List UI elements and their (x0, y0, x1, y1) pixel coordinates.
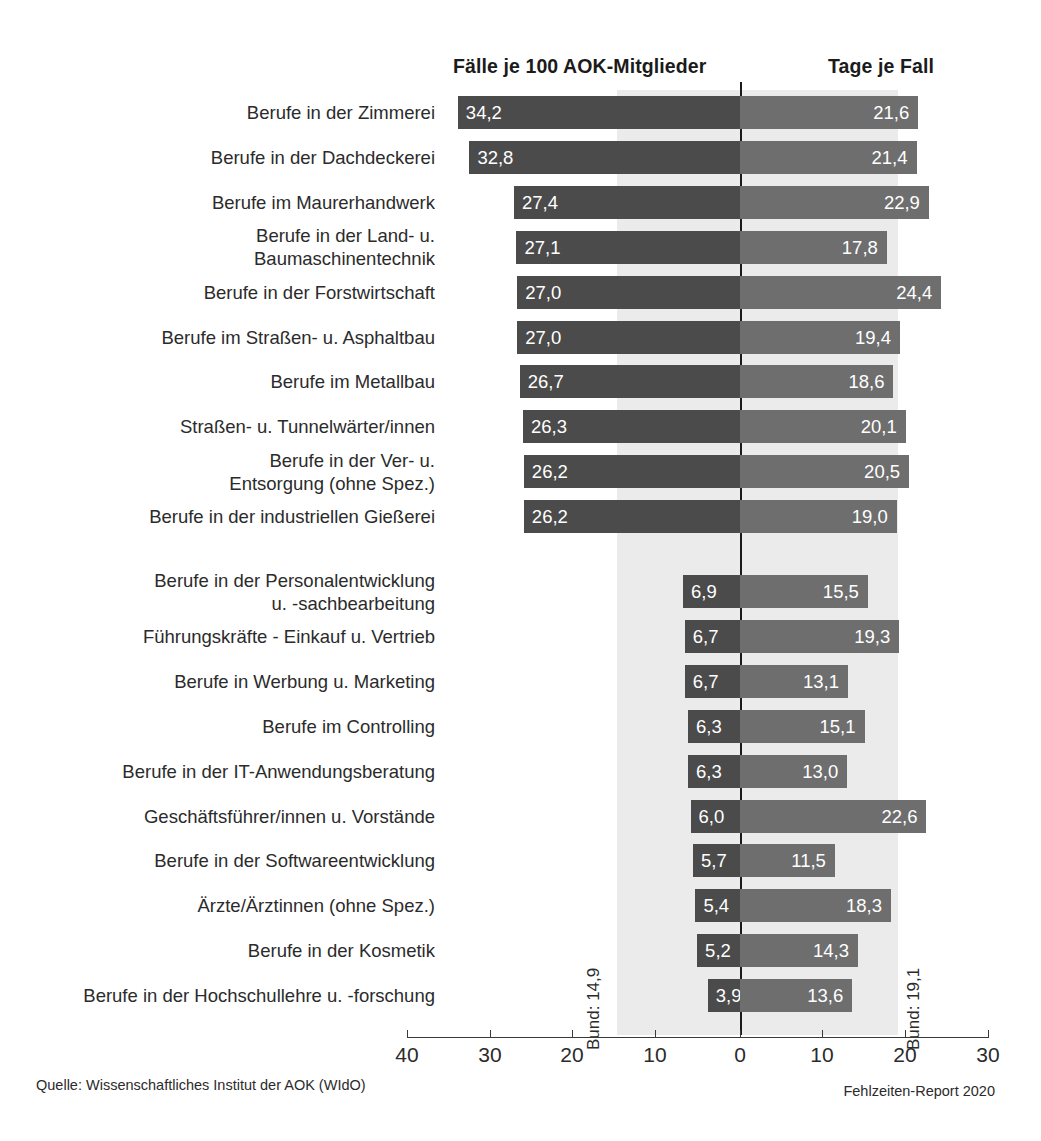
bar-tage: 21,4 (740, 141, 917, 174)
axis-tick-label: 0 (734, 1043, 746, 1067)
category-label: Berufe in der industriellen Gießerei (0, 505, 435, 528)
category-label: Berufe in der Softwareentwicklung (0, 849, 435, 872)
bar-value-faelle: 27,1 (524, 231, 560, 264)
chart-container: Fälle je 100 AOK-Mitglieder Tage je Fall… (0, 0, 1041, 1141)
bar-faelle: 6,3 (688, 755, 740, 788)
axis-tick-mark (740, 1030, 741, 1038)
bar-tage: 19,3 (740, 620, 899, 653)
bar-value-faelle: 32,8 (477, 141, 513, 174)
bar-value-tage: 19,4 (855, 321, 891, 354)
axis-tick-mark (905, 1030, 906, 1038)
bar-faelle: 27,4 (514, 186, 740, 219)
bar-value-faelle: 27,4 (522, 186, 558, 219)
bar-tage: 11,5 (740, 844, 835, 877)
right-column-header: Tage je Fall (828, 55, 934, 78)
bar-value-faelle: 6,9 (691, 575, 717, 608)
bar-tage: 17,8 (740, 231, 887, 264)
bar-tage: 24,4 (740, 276, 941, 309)
bar-value-tage: 19,3 (854, 620, 890, 653)
axis-tick-label: 40 (395, 1043, 418, 1067)
report-note: Fehlzeiten-Report 2020 (843, 1083, 995, 1099)
bar-value-tage: 20,1 (861, 410, 897, 443)
bar-faelle: 27,1 (516, 231, 740, 264)
category-label: Berufe im Controlling (0, 715, 435, 738)
bar-value-tage: 17,8 (842, 231, 878, 264)
left-column-header: Fälle je 100 AOK-Mitglieder (453, 55, 706, 78)
bar-faelle: 27,0 (517, 321, 740, 354)
bar-value-tage: 19,0 (852, 500, 888, 533)
category-label: Straßen- u. Tunnelwärter/innen (0, 415, 435, 438)
bar-value-tage: 21,6 (873, 96, 909, 129)
bar-faelle: 5,4 (695, 889, 740, 922)
bar-faelle: 5,2 (697, 934, 740, 967)
bar-value-tage: 21,4 (872, 141, 908, 174)
bar-faelle: 27,0 (517, 276, 740, 309)
bar-value-tage: 13,6 (807, 979, 843, 1012)
category-label: Berufe im Maurerhandwerk (0, 191, 435, 214)
bar-value-tage: 18,3 (846, 889, 882, 922)
category-label: Berufe in der Personalentwicklung u. -sa… (0, 569, 435, 615)
bar-value-faelle: 26,7 (528, 365, 564, 398)
category-label: Berufe in der Hochschullehre u. -forschu… (0, 984, 435, 1007)
bar-value-tage: 22,6 (881, 800, 917, 833)
bar-value-tage: 24,4 (896, 276, 932, 309)
bar-value-faelle: 6,0 (699, 800, 725, 833)
bar-tage: 22,6 (740, 800, 926, 833)
bar-tage: 18,3 (740, 889, 891, 922)
bar-tage: 14,3 (740, 934, 858, 967)
category-label: Berufe in Werbung u. Marketing (0, 670, 435, 693)
bar-faelle: 3,9 (708, 979, 740, 1012)
x-axis-line (407, 1037, 989, 1038)
bar-tage: 19,4 (740, 321, 900, 354)
bar-faelle: 6,0 (691, 800, 741, 833)
axis-tick-mark (988, 1030, 989, 1038)
bar-tage: 13,0 (740, 755, 847, 788)
axis-tick-mark (655, 1030, 656, 1038)
bar-tage: 22,9 (740, 186, 929, 219)
category-label: Berufe in der Ver- u. Entsorgung (ohne S… (0, 449, 435, 495)
bar-value-faelle: 5,7 (701, 844, 727, 877)
bar-value-faelle: 34,2 (466, 96, 502, 129)
bar-tage: 15,5 (740, 575, 868, 608)
bar-value-faelle: 26,2 (532, 455, 568, 488)
bar-tage: 19,0 (740, 500, 897, 533)
bar-tage: 21,6 (740, 96, 918, 129)
bar-faelle: 5,7 (693, 844, 740, 877)
bar-tage: 13,1 (740, 665, 848, 698)
category-label: Berufe im Straßen- u. Asphaltbau (0, 326, 435, 349)
axis-tick-mark (407, 1030, 408, 1038)
bar-value-faelle: 5,2 (705, 934, 731, 967)
axis-tick-mark (572, 1030, 573, 1038)
bar-value-faelle: 3,9 (716, 979, 742, 1012)
category-label: Berufe in der Dachdeckerei (0, 146, 435, 169)
bar-faelle: 26,2 (524, 455, 740, 488)
bar-value-faelle: 6,7 (693, 665, 719, 698)
bar-faelle: 6,7 (685, 665, 740, 698)
bar-value-faelle: 6,7 (693, 620, 719, 653)
bar-faelle: 6,3 (688, 710, 740, 743)
bar-faelle: 26,3 (523, 410, 740, 443)
axis-tick-label: 20 (560, 1043, 583, 1067)
bar-value-tage: 18,6 (848, 365, 884, 398)
category-label: Berufe in der Forstwirtschaft (0, 281, 435, 304)
bar-faelle: 26,7 (520, 365, 740, 398)
bar-faelle: 6,7 (685, 620, 740, 653)
category-label: Berufe in der Zimmerei (0, 101, 435, 124)
axis-tick-mark (490, 1030, 491, 1038)
bar-value-tage: 11,5 (791, 844, 826, 877)
bar-value-tage: 15,5 (823, 575, 859, 608)
axis-tick-label: 10 (643, 1043, 666, 1067)
bar-value-tage: 20,5 (864, 455, 900, 488)
axis-tick-label: 30 (976, 1043, 999, 1067)
bar-faelle: 32,8 (469, 141, 740, 174)
category-label: Berufe im Metallbau (0, 370, 435, 393)
axis-tick-label: 10 (810, 1043, 833, 1067)
category-label: Berufe in der Kosmetik (0, 939, 435, 962)
bar-value-faelle: 26,3 (531, 410, 567, 443)
bar-value-tage: 14,3 (813, 934, 849, 967)
bar-faelle: 26,2 (524, 500, 740, 533)
axis-tick-mark (822, 1030, 823, 1038)
source-note: Quelle: Wissenschaftliches Institut der … (36, 1077, 366, 1093)
bar-tage: 20,1 (740, 410, 906, 443)
bar-value-faelle: 5,4 (703, 889, 729, 922)
